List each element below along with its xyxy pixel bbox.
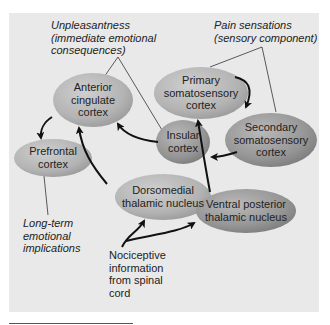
annotation-pain-sensations: Pain sensations (sensory component) (214, 19, 317, 44)
label-primary-somatosensory: Primary somatosensory cortex (151, 74, 251, 112)
annotation-unpleasantness: Unpleasantness (immediate emotional cons… (51, 19, 156, 57)
label-prefrontal: Prefrontal cortex (13, 145, 93, 170)
label-nociceptive-input: Nociceptive information from spinal cord (109, 249, 166, 299)
label-insular: Insular cortex (153, 129, 213, 154)
annotation-long-term: Long-term emotional implications (23, 217, 80, 255)
caption-rule (9, 323, 133, 324)
label-anterior-cingulate: Anterior cingulate cortex (53, 81, 133, 119)
label-secondary-somatosensory: Secondary somatosensory cortex (221, 121, 321, 159)
label-ventral-posterior: Ventral posterior thalamic nucleus (191, 198, 301, 223)
